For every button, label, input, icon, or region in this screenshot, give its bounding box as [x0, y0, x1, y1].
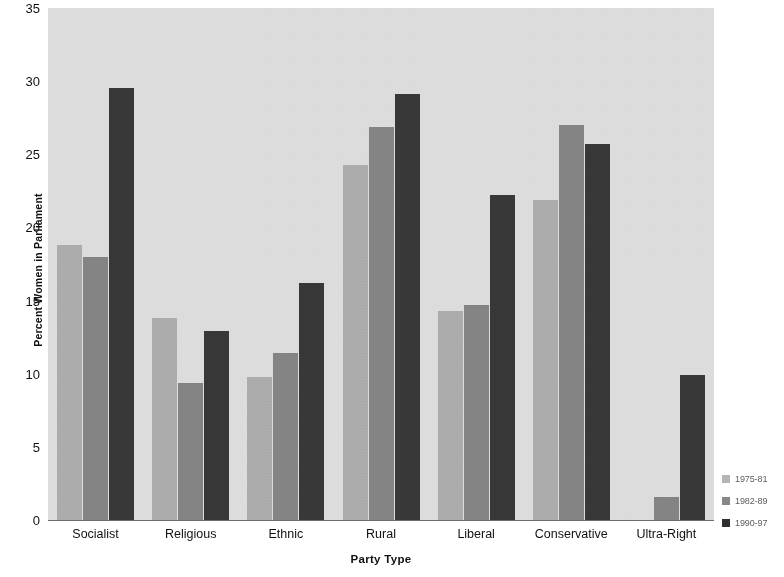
- bar-texture: [247, 377, 272, 520]
- bar: [83, 257, 108, 520]
- bar-texture: [395, 94, 420, 520]
- bar-texture: [438, 311, 463, 520]
- legend-swatch-icon: [722, 497, 730, 505]
- x-axis-tick-labels: SocialistReligiousEthnicRuralLiberalCons…: [48, 527, 714, 549]
- x-tick-label: Conservative: [535, 527, 608, 541]
- y-axis-tick-labels: 05101520253035: [8, 0, 40, 577]
- x-tick-label: Liberal: [457, 527, 495, 541]
- bar: [178, 383, 203, 521]
- bar-texture: [654, 497, 679, 520]
- bar-texture: [273, 353, 298, 520]
- bar: [395, 94, 420, 520]
- x-axis-line: [48, 520, 714, 521]
- y-tick-label: 5: [12, 439, 40, 454]
- legend-item[interactable]: 1982-89: [722, 490, 784, 512]
- y-tick-label: 25: [12, 147, 40, 162]
- bar: [152, 318, 177, 520]
- bar: [299, 283, 324, 520]
- bar-texture: [680, 375, 705, 520]
- bar-chart: Percent Women in Parliament 051015202530…: [0, 0, 784, 577]
- bar-texture: [559, 125, 584, 520]
- legend-label: 1990-97: [735, 518, 767, 528]
- bar: [109, 88, 134, 520]
- bar-texture: [369, 127, 394, 521]
- plot-area: [48, 8, 714, 520]
- bars-layer: [48, 8, 714, 520]
- bar-texture: [178, 383, 203, 521]
- legend: 1975-811982-891990-97: [722, 468, 784, 534]
- bar: [57, 245, 82, 520]
- legend-swatch-icon: [722, 475, 730, 483]
- bar-texture: [585, 144, 610, 520]
- bar-texture: [57, 245, 82, 520]
- y-tick-label: 30: [12, 74, 40, 89]
- bar: [438, 311, 463, 520]
- y-tick-label: 15: [12, 293, 40, 308]
- bar-texture: [343, 165, 368, 520]
- bar: [680, 375, 705, 520]
- bar-texture: [204, 331, 229, 520]
- x-tick-label: Ultra-Right: [637, 527, 697, 541]
- x-axis-title: Party Type: [48, 553, 714, 565]
- bar: [273, 353, 298, 520]
- y-tick-label: 20: [12, 220, 40, 235]
- bar-texture: [83, 257, 108, 520]
- bar: [204, 331, 229, 520]
- legend-item[interactable]: 1975-81: [722, 468, 784, 490]
- bar-texture: [152, 318, 177, 520]
- bar: [490, 195, 515, 520]
- legend-swatch-icon: [722, 519, 730, 527]
- y-tick-label: 35: [12, 1, 40, 16]
- bar-texture: [464, 305, 489, 520]
- bar: [343, 165, 368, 520]
- bar: [533, 200, 558, 520]
- bar: [247, 377, 272, 520]
- bar-texture: [533, 200, 558, 520]
- legend-label: 1975-81: [735, 474, 767, 484]
- bar: [464, 305, 489, 520]
- bar-texture: [490, 195, 515, 520]
- y-tick-label: 10: [12, 366, 40, 381]
- x-tick-label: Rural: [366, 527, 396, 541]
- x-tick-label: Ethnic: [268, 527, 303, 541]
- bar: [654, 497, 679, 520]
- bar: [559, 125, 584, 520]
- x-tick-label: Socialist: [72, 527, 119, 541]
- y-tick-label: 0: [12, 513, 40, 528]
- x-tick-label: Religious: [165, 527, 216, 541]
- bar-texture: [299, 283, 324, 520]
- bar: [585, 144, 610, 520]
- bar: [369, 127, 394, 521]
- legend-label: 1982-89: [735, 496, 767, 506]
- bar-texture: [109, 88, 134, 520]
- legend-item[interactable]: 1990-97: [722, 512, 784, 534]
